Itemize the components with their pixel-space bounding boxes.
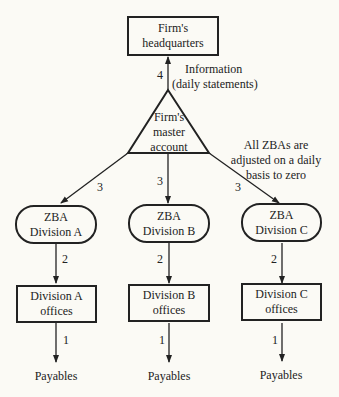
edge-label-3-c: 3 [235, 180, 241, 195]
headquarters-line2: headquarters [142, 36, 203, 51]
office-a-line1: Division A [30, 289, 82, 304]
zba-note: All ZBAs are adjusted on a daily basis t… [226, 138, 326, 183]
edge-label-3-a: 3 [97, 180, 103, 195]
office-c-line2: offices [265, 302, 297, 317]
payables-c: Payables [251, 368, 311, 383]
office-b-line2: offices [153, 303, 185, 318]
edge-label-2-b: 2 [157, 252, 163, 267]
zba-division-a: ZBA Division A [15, 205, 97, 244]
division-c-offices: Division C offices [241, 283, 322, 321]
master-account-label: Firm's master account [138, 110, 200, 155]
zba-c-line1: ZBA [270, 208, 294, 223]
payables-a: Payables [26, 369, 86, 384]
information-line2: (daily statements) [172, 77, 258, 92]
edge-label-3-b: 3 [157, 174, 163, 189]
zba-a-line2: Division A [30, 225, 82, 240]
zba-c-line2: Division C [255, 223, 307, 238]
information-line1: Information [172, 62, 258, 77]
zba-b-line2: Division B [143, 224, 195, 239]
edge-label-1-a: 1 [63, 333, 69, 348]
edge-label-2-a: 2 [62, 252, 68, 267]
note-line2: adjusted on a daily [226, 153, 326, 168]
headquarters-box: Firm's headquarters [127, 16, 219, 56]
office-b-line1: Division B [143, 288, 195, 303]
note-line3: basis to zero [226, 168, 326, 183]
zba-a-line1: ZBA [44, 210, 68, 225]
edge-label-2-c: 2 [271, 252, 277, 267]
information-label: Information (daily statements) [172, 62, 258, 92]
zba-division-b: ZBA Division B [128, 204, 210, 243]
master-line2: master [138, 125, 200, 140]
master-line3: account [138, 140, 200, 155]
office-c-line1: Division C [255, 287, 307, 302]
connector-lines [0, 0, 339, 397]
office-a-line2: offices [40, 304, 72, 319]
edge-label-1-c: 1 [272, 333, 278, 348]
edge-label-1-b: 1 [159, 333, 165, 348]
zba-b-line1: ZBA [157, 209, 181, 224]
headquarters-line1: Firm's [158, 21, 188, 36]
payables-b: Payables [139, 369, 199, 384]
master-line1: Firm's [138, 110, 200, 125]
edge-label-4: 4 [157, 68, 163, 83]
division-b-offices: Division B offices [128, 284, 210, 322]
note-line1: All ZBAs are [226, 138, 326, 153]
division-a-offices: Division A offices [16, 285, 97, 323]
zba-division-c: ZBA Division C [241, 203, 322, 242]
